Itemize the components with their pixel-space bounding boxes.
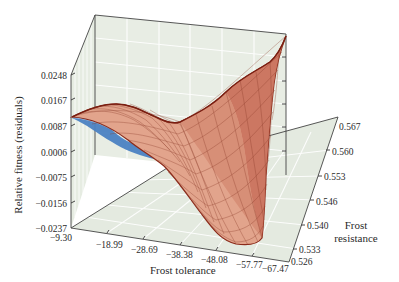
z-tick: 0.0006 — [41, 148, 67, 158]
surface-plot: 0.0248 0.0167 0.0087 0.0006 −0.0075 −0.0… — [0, 0, 399, 282]
y-tick: 0.560 — [332, 147, 354, 157]
y-tick: 0.540 — [307, 221, 329, 231]
x-tick: −67.47 — [262, 264, 289, 274]
y-tick: 0.533 — [299, 245, 321, 255]
y-tick: 0.526 — [291, 257, 313, 267]
z-tick: 0.0087 — [41, 122, 67, 132]
z-tick: 0.0167 — [41, 96, 67, 106]
y-tick: 0.567 — [339, 122, 361, 132]
x-tick: −18.99 — [96, 240, 123, 250]
x-tick: −28.69 — [131, 245, 158, 255]
y-tick: 0.553 — [324, 172, 346, 182]
z-axis-label: Relative fitness (residuals) — [12, 96, 25, 214]
y-axis-label-line1: Frost — [345, 219, 368, 231]
z-tick: 0.0248 — [41, 71, 67, 81]
z-tick: −0.0075 — [36, 173, 68, 183]
z-tick: −0.0156 — [36, 199, 68, 209]
x-tick: −57.77 — [236, 260, 263, 270]
x-tick: −9.30 — [50, 233, 72, 243]
z-tick-labels: 0.0248 0.0167 0.0087 0.0006 −0.0075 −0.0… — [36, 71, 68, 234]
y-tick: 0.546 — [316, 197, 338, 207]
y-axis-label-line2: resistance — [334, 232, 377, 244]
x-tick: −38.38 — [166, 250, 193, 260]
x-axis-label: Frost tolerance — [150, 264, 216, 276]
